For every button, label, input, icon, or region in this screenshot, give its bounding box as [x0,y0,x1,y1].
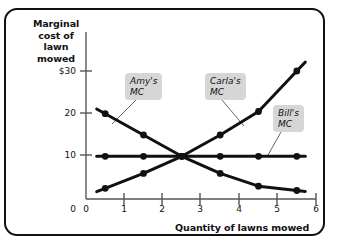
y-axis-title-line: cost of [25,30,87,42]
data-point-marker [255,108,262,115]
callout-bills-mc: Bill's MC [273,105,304,132]
x-tick-label-6: 6 [309,204,323,214]
y-axis-title-line: Marginal [25,18,87,30]
y-axis-title-line: lawn mowed [25,41,87,64]
x-tick-label-3: 3 [193,204,207,214]
data-point-marker [140,132,147,139]
data-point-marker [255,153,262,160]
data-point-marker [140,170,147,177]
data-point-marker [293,68,300,75]
data-point-marker [102,110,109,117]
data-point-marker [255,183,262,190]
data-point-marker [293,187,300,194]
data-point-marker [293,153,300,160]
x-tick-label-4: 4 [232,204,246,214]
x-tick-label-2: 2 [155,204,169,214]
y-tick-label-30: $30 [50,66,76,76]
x-axis-title: Quantity of lawns mowed [175,222,325,234]
data-point-marker [178,153,185,160]
y-axis-title: Marginalcost oflawn mowed [25,18,87,64]
data-point-marker [217,153,224,160]
leader-line-bill [268,132,281,155]
data-point-marker [217,170,224,177]
y-tick-label-0: 0 [50,204,76,214]
callout-carlas-mc: Carla's MC [205,73,246,100]
x-tick-label-5: 5 [270,204,284,214]
x-tick-label-1: 1 [117,204,131,214]
y-tick-label-10: 10 [50,150,76,160]
data-point-marker [140,153,147,160]
y-tick-label-20: 20 [50,108,76,118]
callout-amys-mc: Amy's MC [125,73,162,100]
data-point-marker [102,153,109,160]
x-tick-label-0: 0 [79,204,93,214]
data-point-marker [217,132,224,139]
data-point-marker [102,185,109,192]
